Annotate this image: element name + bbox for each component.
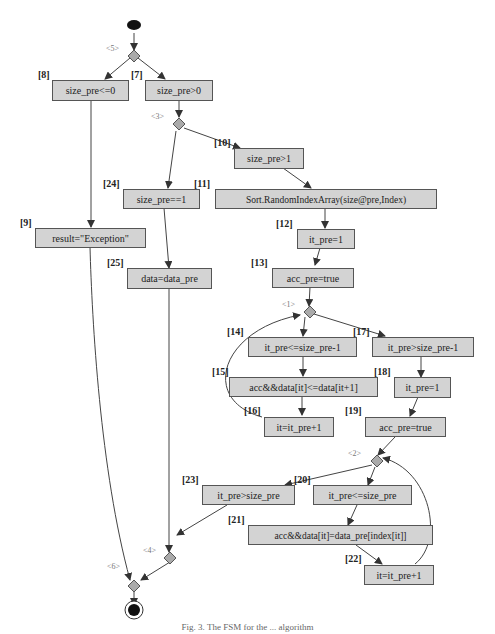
node-acc-data-eq-data-pre-index: acc&&data[it]=data_pre[index[it]]	[248, 525, 433, 545]
node-tag-14: [14]	[227, 326, 244, 337]
node-tag-9: [9]	[20, 217, 32, 228]
node-acc-data-le: acc&&data[it]<=data[it+1]	[229, 377, 378, 397]
decision-label-3: <3>	[151, 112, 164, 121]
node-tag-17: [17]	[353, 326, 370, 337]
node-tag-10: [10]	[214, 137, 231, 148]
node-data-eq-data-pre: data=data_pre	[127, 268, 212, 289]
node-tag-22: [22]	[345, 553, 362, 564]
node-it-eq-it-pre-plus-1: it=it_pre+1	[264, 417, 334, 437]
node-it-pre-le-size-pre: it_pre<=size_pre	[313, 485, 412, 505]
node-tag-21: [21]	[228, 514, 245, 525]
decision-label-1: <1>	[282, 300, 295, 309]
figure-caption: Fig. 3. The FSM for the ... algorithm	[0, 622, 495, 632]
flow-diagram: <5> <3> <1> <2> <4> <6> [8] size_pre<=0 …	[0, 0, 495, 634]
node-it-pre-1: it_pre=1	[297, 229, 355, 249]
node-size-pre-le-0: size_pre<=0	[52, 80, 129, 101]
node-tag-12: [12]	[276, 218, 293, 229]
node-tag-13: [13]	[251, 257, 268, 268]
node-acc-pre-true: acc_pre=true	[272, 268, 354, 288]
node-it-pre-gt-size-pre-minus-1: it_pre>size_pre-1	[372, 337, 474, 357]
node-it-eq-it-pre-plus-1-b: it=it_pre+1	[364, 565, 434, 585]
node-tag-20: [20]	[294, 474, 311, 485]
node-tag-7: [7]	[131, 69, 143, 80]
decision-label-2: <2>	[348, 449, 361, 458]
decision-label-5: <5>	[106, 44, 119, 53]
decision-label-6: <6>	[107, 562, 120, 571]
node-tag-23: [23]	[182, 474, 199, 485]
node-acc-pre-true-b: acc_pre=true	[365, 417, 446, 437]
node-it-pre-gt-size-pre: it_pre>size_pre	[202, 485, 295, 505]
start-node	[127, 20, 141, 30]
node-tag-15: [15]	[212, 366, 229, 377]
node-size-pre-eq-1: size_pre==1	[123, 189, 200, 209]
node-tag-18: [18]	[374, 366, 391, 377]
decision-label-4: <4>	[143, 546, 156, 555]
node-tag-24: [24]	[103, 178, 120, 189]
node-it-pre-1-b: it_pre=1	[394, 377, 451, 398]
node-result-exception: result="Exception"	[35, 228, 146, 248]
node-tag-16: [16]	[244, 405, 261, 416]
node-size-pre-gt-1: size_pre>1	[234, 148, 304, 169]
node-it-pre-le-size-pre-minus-1: it_pre<=size_pre-1	[248, 337, 357, 357]
node-tag-25: [25]	[107, 257, 124, 268]
node-size-pre-gt-0: size_pre>0	[145, 80, 213, 101]
node-tag-19: [19]	[345, 405, 362, 416]
node-tag-11: [11]	[194, 178, 210, 189]
node-tag-8: [8]	[38, 69, 50, 80]
node-sort-random-index-array: Sort.RandomIndexArray(size@pre,Index)	[215, 189, 437, 209]
